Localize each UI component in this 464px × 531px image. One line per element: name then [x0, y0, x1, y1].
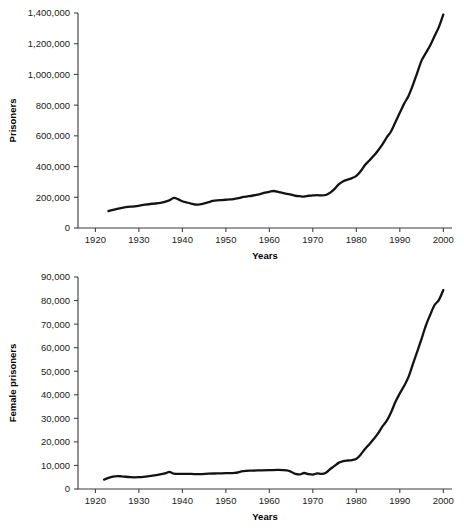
x-axis-title: Years — [252, 511, 277, 522]
y-tick-label: 40,000 — [41, 389, 70, 400]
series-line — [108, 15, 443, 212]
x-tick-label: 2000 — [433, 495, 454, 506]
female-prisoners-plot: 010,00020,00030,00040,00050,00060,00070,… — [0, 266, 464, 531]
total-prisoners-plot: 0200,000400,000600,000800,0001,000,0001,… — [0, 0, 464, 266]
x-tick-label: 1950 — [215, 234, 236, 245]
y-tick-label: 0 — [65, 222, 70, 233]
x-tick-label: 1960 — [259, 495, 280, 506]
x-tick-label: 1970 — [302, 495, 323, 506]
series-line — [104, 290, 443, 480]
chart-female-prisoners: 010,00020,00030,00040,00050,00060,00070,… — [0, 266, 464, 531]
x-tick-label: 2000 — [433, 234, 454, 245]
y-tick-label: 20,000 — [41, 436, 70, 447]
x-tick-label: 1970 — [302, 234, 323, 245]
y-axis-title: Female prisoners — [7, 344, 18, 423]
y-tick-label: 800,000 — [36, 100, 70, 111]
x-tick-label: 1990 — [389, 495, 410, 506]
y-tick-label: 200,000 — [36, 192, 70, 203]
y-tick-label: 10,000 — [41, 460, 70, 471]
x-tick-label: 1940 — [172, 234, 193, 245]
x-axis-title: Years — [252, 250, 277, 261]
y-axis-title: Prisoners — [7, 99, 18, 143]
x-tick-label: 1920 — [85, 234, 106, 245]
y-tick-label: 80,000 — [41, 295, 70, 306]
x-tick-label: 1930 — [128, 495, 149, 506]
y-tick-label: 400,000 — [36, 161, 70, 172]
y-tick-label: 30,000 — [41, 413, 70, 424]
y-tick-label: 1,400,000 — [28, 7, 70, 18]
x-tick-label: 1930 — [128, 234, 149, 245]
y-tick-label: 0 — [65, 483, 70, 494]
x-tick-label: 1980 — [346, 495, 367, 506]
x-tick-label: 1990 — [389, 234, 410, 245]
x-tick-label: 1960 — [259, 234, 280, 245]
y-tick-label: 1,000,000 — [28, 69, 70, 80]
y-tick-label: 70,000 — [41, 319, 70, 330]
y-tick-label: 50,000 — [41, 366, 70, 377]
y-tick-label: 600,000 — [36, 130, 70, 141]
x-tick-label: 1980 — [346, 234, 367, 245]
y-tick-label: 1,200,000 — [28, 38, 70, 49]
y-tick-label: 90,000 — [41, 271, 70, 282]
x-tick-label: 1950 — [215, 495, 236, 506]
chart-total-prisoners: 0200,000400,000600,000800,0001,000,0001,… — [0, 0, 464, 266]
y-tick-label: 60,000 — [41, 342, 70, 353]
x-tick-label: 1940 — [172, 495, 193, 506]
x-tick-label: 1920 — [85, 495, 106, 506]
